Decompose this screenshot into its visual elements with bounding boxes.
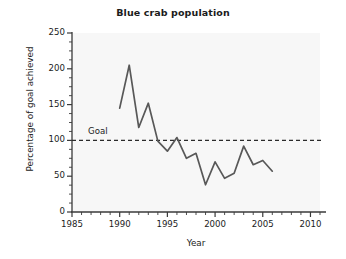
x-tick-label: 1995 (147, 219, 187, 229)
tick-marks-group (67, 33, 320, 217)
x-tick-label: 2010 (290, 219, 330, 229)
x-tick-label: 1990 (100, 219, 140, 229)
y-axis-label: Percentage of goal achieved (25, 29, 35, 189)
x-tick-label: 2000 (195, 219, 235, 229)
goal-annotation-label: Goal (88, 126, 108, 136)
data-line-blue-crab-population (120, 65, 273, 185)
data-series-group (120, 65, 273, 185)
y-tick-label: 250 (33, 27, 65, 37)
x-tick-label: 2005 (243, 219, 283, 229)
y-tick-label: 200 (33, 63, 65, 73)
y-tick-label: 50 (33, 170, 65, 180)
y-tick-label: 0 (33, 206, 65, 216)
y-tick-label: 100 (33, 134, 65, 144)
chart-figure: Blue crab population Percentage of goal … (0, 0, 346, 259)
x-tick-label: 1985 (52, 219, 92, 229)
x-axis-label: Year (72, 238, 320, 248)
y-tick-label: 150 (33, 99, 65, 109)
axes-group (71, 32, 326, 212)
